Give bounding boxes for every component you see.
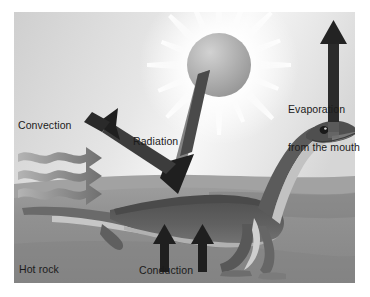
label-convection: Convection <box>18 119 72 132</box>
label-evaporation-line1: Evaporation <box>288 103 360 116</box>
label-hot-rock: Hot rock <box>19 263 59 276</box>
label-radiation: Radiation <box>133 135 178 148</box>
label-conduction: Conduction <box>139 264 193 277</box>
heat-transfer-diagram: Convection Radiation Evaporation from th… <box>0 0 370 297</box>
label-evaporation-line2: from the mouth <box>288 141 360 154</box>
label-evaporation: Evaporation from the mouth <box>288 78 360 178</box>
lizard-hind-foot <box>258 273 286 280</box>
